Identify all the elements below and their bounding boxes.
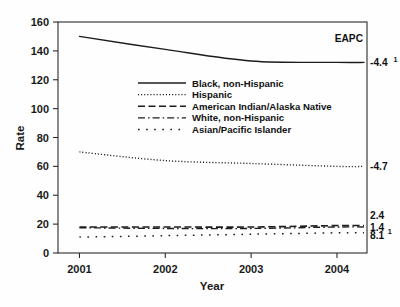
legend-label-4: Asian/Pacific Islander	[192, 124, 291, 135]
data-series-group	[79, 36, 364, 237]
legend: Black, non-HispanicHispanicAmerican Indi…	[138, 78, 332, 135]
y-tick-label: 40	[37, 189, 49, 201]
y-tick-label: 60	[37, 160, 49, 172]
y-axis-ticks	[53, 22, 58, 253]
eapc-value-4: 8.1	[370, 230, 384, 241]
eapc-value-0: -4.4	[370, 57, 388, 68]
legend-label-0: Black, non-Hispanic	[192, 78, 284, 89]
chart-figure: 020406080100120140160 2001200220032004 R…	[0, 0, 400, 307]
series-line-1	[79, 152, 364, 167]
series-line-2	[79, 225, 364, 227]
eapc-header-label: EAPC	[335, 33, 364, 44]
y-tick-label: 80	[37, 132, 49, 144]
y-tick-label: 160	[31, 16, 49, 28]
series-line-0	[79, 36, 364, 62]
y-tick-label: 20	[37, 218, 49, 230]
y-axis-title: Rate	[14, 126, 26, 151]
x-tick-label: 2004	[325, 263, 350, 275]
y-tick-label: 120	[31, 74, 49, 86]
y-tick-label: 140	[31, 45, 49, 57]
series-line-4	[79, 233, 364, 237]
legend-label-1: Hispanic	[192, 89, 233, 100]
chart-canvas: 020406080100120140160 2001200220032004 R…	[0, 0, 400, 307]
y-tick-label: 100	[31, 103, 49, 115]
x-axis-tick-labels: 2001200220032004	[67, 263, 350, 275]
x-axis-ticks	[79, 253, 337, 258]
x-tick-label: 2001	[67, 263, 91, 275]
eapc-superscript-4: 1	[388, 227, 392, 236]
legend-label-2: American Indian/Alaska Native	[192, 101, 332, 112]
eapc-superscript-0: 1	[394, 55, 398, 64]
eapc-value-2: 2.4	[370, 210, 384, 221]
y-tick-label: 0	[43, 247, 49, 259]
x-tick-label: 2002	[153, 263, 177, 275]
x-axis-title: Year	[200, 280, 225, 292]
eapc-value-1: -4.7	[370, 161, 388, 172]
legend-label-3: White, non-Hispanic	[192, 112, 285, 123]
y-axis-tick-labels: 020406080100120140160	[31, 16, 49, 259]
eapc-annotation-column: EAPC -4.41-4.72.41.48.11	[335, 33, 398, 241]
x-tick-label: 2003	[239, 263, 263, 275]
